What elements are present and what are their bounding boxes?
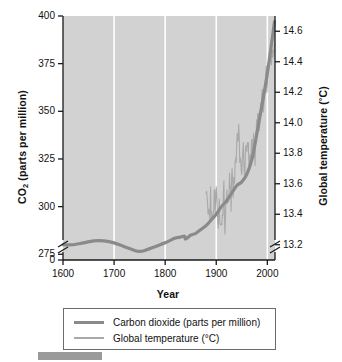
y-axis-left-tick-0: 0 <box>21 254 55 265</box>
y-axis-left-tick-300: 300 <box>21 201 55 212</box>
y-axis-right-tick-14_0: 14.0 <box>283 117 317 128</box>
x-axis-tick-1600: 1600 <box>43 268 83 279</box>
y-axis-right-tick-13_8: 13.8 <box>283 147 317 158</box>
x-axis-tick-1700: 1700 <box>94 268 134 279</box>
x-axis-tick-1900: 1900 <box>196 268 236 279</box>
legend-label-carbon-dioxide: Carbon dioxide (parts per million) <box>113 317 260 328</box>
x-axis-title: Year <box>62 288 274 300</box>
x-axis-tick-2000: 2000 <box>247 268 287 279</box>
y-axis-left-tick-350: 350 <box>21 105 55 116</box>
legend-label-global-temperature: Global temperature (°C) <box>113 333 219 344</box>
legend-swatch-temperature-icon <box>74 337 104 338</box>
legend-swatch-co2-icon <box>74 321 104 324</box>
y-axis-left-tick-325: 325 <box>21 153 55 164</box>
y-axis-right-tick-13_2: 13.2 <box>283 239 317 250</box>
y-axis-right-title-rest: C) <box>317 86 329 97</box>
y-axis-left-tick-375: 375 <box>21 58 55 69</box>
chart-legend: Carbon dioxide (parts per million) Globa… <box>63 308 276 350</box>
y-axis-right-tick-14_6: 14.6 <box>283 25 317 36</box>
x-axis-tick-1800: 1800 <box>145 268 185 279</box>
y-axis-right-tick-14_4: 14.4 <box>283 56 317 67</box>
y-axis-left-title-subscript: 2 <box>21 184 30 188</box>
degree-icon: ° <box>317 97 327 101</box>
y-axis-right-title-main: Global temperature ( <box>317 101 329 206</box>
climate-chart-figure: CO2 (parts per million) Global temperatu… <box>0 0 342 362</box>
legend-item-global-temperature: Global temperature (°C) <box>64 330 275 346</box>
legend-item-carbon-dioxide: Carbon dioxide (parts per million) <box>64 314 275 330</box>
bottom-corner-bar <box>38 352 102 360</box>
y-axis-right-title: Global temperature (°C) <box>317 66 329 226</box>
y-axis-right-tick-14_2: 14.2 <box>283 86 317 97</box>
plot-background <box>63 16 275 260</box>
y-axis-left-tick-400: 400 <box>21 10 55 21</box>
y-axis-left-title-rest: (parts per million) <box>16 90 28 184</box>
y-axis-right-tick-13_6: 13.6 <box>283 178 317 189</box>
y-axis-right-tick-13_4: 13.4 <box>283 208 317 219</box>
